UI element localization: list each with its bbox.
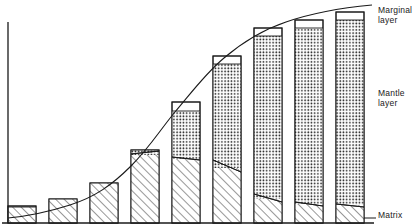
bar-8[interactable] <box>295 20 323 223</box>
stacked-bar-chart <box>0 0 416 224</box>
bar-7[interactable] <box>254 28 282 223</box>
bar-5[interactable] <box>172 102 200 223</box>
matrix-proportion-curve <box>131 151 364 207</box>
legend-label-mantle-layer: Mantle layer <box>378 88 405 108</box>
bar-6[interactable] <box>213 56 241 223</box>
bar-9[interactable] <box>336 12 364 223</box>
figure-container: Marginal layer Mantle layer Matrix <box>0 0 416 224</box>
legend-label-marginal-layer: Marginal layer <box>378 5 412 25</box>
bar-2[interactable] <box>49 199 77 223</box>
legend-label-matrix: Matrix <box>378 210 402 220</box>
